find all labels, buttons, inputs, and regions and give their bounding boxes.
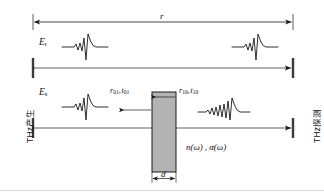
path-length-label: r [160, 12, 164, 21]
sample-block [152, 92, 176, 172]
thz-tds-schematic [0, 0, 324, 196]
reference-field-subscript: r [45, 40, 47, 47]
thz-detection-label: THz探测 [310, 108, 322, 143]
sample-field-subscript: s [45, 90, 48, 97]
fresnel-front-transmission-subscript: 01 [124, 89, 130, 95]
reference-pulse-incident-waveform [62, 34, 108, 60]
reference-field-label: Er [39, 38, 47, 48]
optical-constants-label: n(ω) , α(ω) [186, 143, 226, 152]
baseline-rule [0, 190, 324, 191]
fresnel-back-transmission-subscript: 10 [193, 89, 199, 95]
sample-pulse-transmitted-waveform [198, 98, 250, 120]
fresnel-front-label: r01, t01 [110, 87, 129, 96]
sample-field-label: Es [39, 88, 47, 98]
sample-pulse-incident-waveform [62, 94, 108, 120]
fresnel-back-label: r10, t10 [179, 87, 198, 96]
thickness-label: d [161, 170, 166, 179]
reference-pulse-detected-waveform [232, 34, 278, 60]
thz-generation-label: THz产生 [23, 108, 35, 143]
